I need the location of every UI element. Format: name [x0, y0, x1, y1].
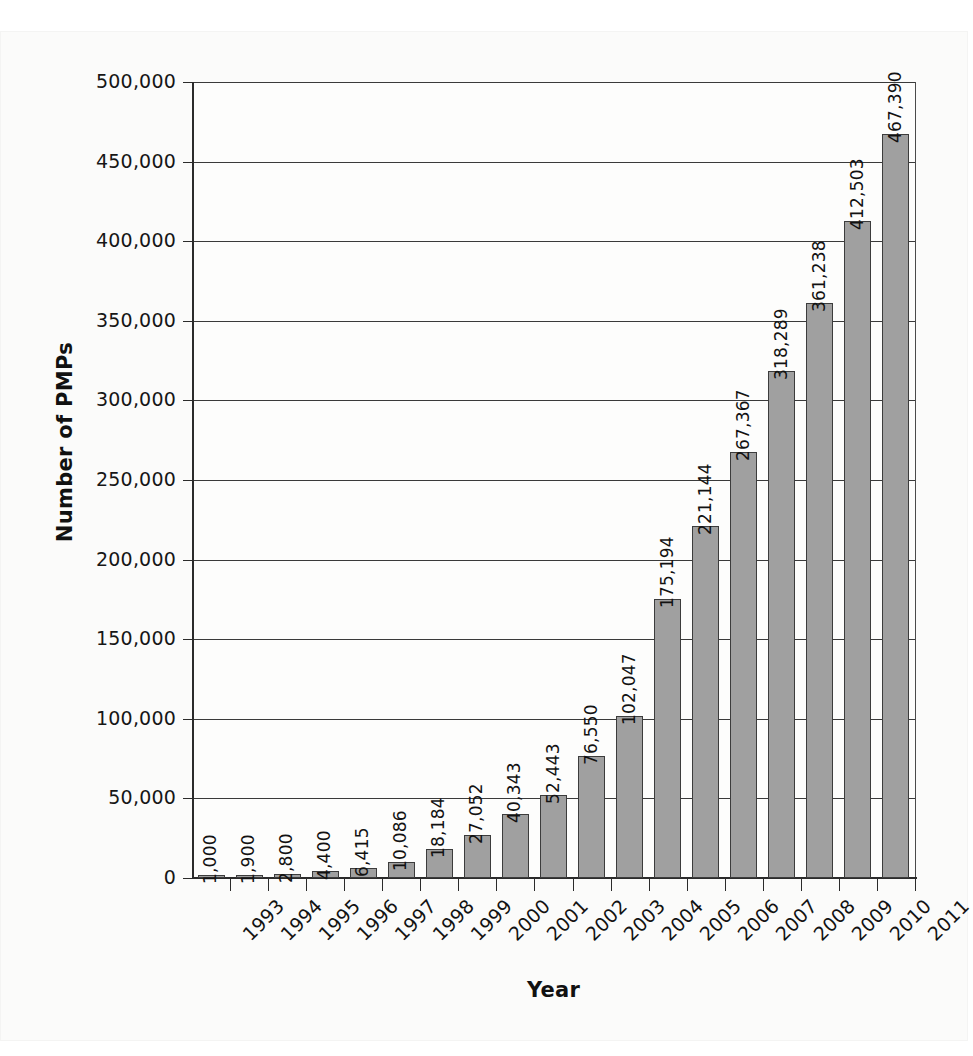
x-axis-category-label: 1998: [429, 896, 477, 944]
x-axis-tick: [573, 879, 574, 891]
x-axis-category-label: 1994: [277, 896, 325, 944]
x-axis-category-label: 2002: [582, 896, 630, 944]
bar-value-label: 102,047: [621, 653, 638, 725]
x-axis-tick: [725, 879, 726, 891]
bar-value-label: 40,343: [506, 762, 523, 823]
x-axis-tick: [801, 879, 802, 891]
x-axis-category-label: 2011: [924, 896, 972, 944]
x-axis-tick: [496, 879, 497, 891]
x-axis-tick: [420, 879, 421, 891]
y-axis-line: [192, 82, 194, 879]
x-axis-tick: [611, 879, 612, 891]
x-axis-tick: [344, 879, 345, 891]
x-axis-tick: [230, 879, 231, 891]
y-axis-tick-label: 300,000: [76, 390, 176, 409]
bar: [654, 599, 681, 878]
y-axis-title: Number of PMPs: [53, 332, 77, 552]
bar-value-label: 6,415: [354, 827, 371, 877]
x-axis-category-label: 2010: [886, 896, 934, 944]
y-axis-tick-label: 450,000: [76, 152, 176, 171]
x-axis-tick: [915, 879, 916, 891]
y-axis-tick-label: 100,000: [76, 709, 176, 728]
bar-value-label: 361,238: [811, 240, 828, 312]
y-axis-tick: [183, 798, 192, 799]
bar-value-label: 2,800: [278, 833, 295, 883]
bar-value-label: 1,900: [240, 834, 257, 884]
x-axis-category-label: 1999: [467, 896, 515, 944]
bar: [806, 303, 833, 878]
bar: [844, 221, 871, 878]
bar: [578, 756, 605, 878]
x-axis-tick: [687, 879, 688, 891]
x-axis-category-label: 2008: [810, 896, 858, 944]
bar: [616, 716, 643, 878]
bar-value-label: 412,503: [849, 158, 866, 230]
bar: [692, 526, 719, 878]
x-axis-tick: [458, 879, 459, 891]
bar: [730, 452, 757, 878]
y-axis-tick: [183, 560, 192, 561]
x-axis-category-label: 1993: [239, 896, 287, 944]
x-axis-category-label: 2009: [848, 896, 896, 944]
x-axis-category-label: 1996: [353, 896, 401, 944]
y-axis-tick-label: 400,000: [76, 231, 176, 250]
bar-value-label: 10,086: [392, 810, 409, 871]
y-axis-tick-label: 250,000: [76, 470, 176, 489]
x-axis-tick: [382, 879, 383, 891]
bar: [882, 134, 909, 878]
x-axis-title: Year: [192, 978, 915, 1002]
plot-right-border: [915, 82, 916, 879]
x-axis-category-label: 2004: [658, 896, 706, 944]
x-axis-tick: [763, 879, 764, 891]
bar-value-label: 175,194: [659, 536, 676, 608]
y-axis-tick: [183, 480, 192, 481]
y-axis-tick: [183, 400, 192, 401]
bar-value-label: 1,000: [202, 834, 219, 884]
y-axis-tick: [183, 719, 192, 720]
x-axis-tick: [268, 879, 269, 891]
bar: [540, 795, 567, 878]
x-axis-tick: [877, 879, 878, 891]
x-axis-category-label: 1995: [315, 896, 363, 944]
bar-value-label: 27,052: [468, 783, 485, 844]
bar-value-label: 18,184: [430, 797, 447, 858]
bar-value-label: 52,443: [545, 743, 562, 804]
x-axis-category-label: 2003: [620, 896, 668, 944]
x-axis-tick: [649, 879, 650, 891]
x-axis-tick: [306, 879, 307, 891]
bar-value-label: 76,550: [583, 704, 600, 765]
bar-value-label: 318,289: [773, 308, 790, 380]
y-axis-tick-label: 350,000: [76, 311, 176, 330]
x-axis-category-label: 2000: [505, 896, 553, 944]
gridline: [192, 241, 915, 242]
bar-value-label: 267,367: [735, 389, 752, 461]
y-axis-tick: [183, 321, 192, 322]
y-axis-tick: [183, 241, 192, 242]
x-axis-category-label: 2007: [772, 896, 820, 944]
gridline: [192, 162, 915, 163]
x-axis-tick: [839, 879, 840, 891]
bar-value-label: 4,400: [316, 830, 333, 880]
y-axis-tick: [183, 82, 192, 83]
y-axis-tick: [183, 162, 192, 163]
bar-value-label: 221,144: [697, 463, 714, 535]
bar: [768, 371, 795, 878]
x-axis-category-label: 1997: [391, 896, 439, 944]
bar: [502, 814, 529, 878]
y-axis-tick-label: 500,000: [76, 72, 176, 91]
y-axis-tick-label: 150,000: [76, 629, 176, 648]
y-axis-tick: [183, 878, 192, 879]
y-axis-tick: [183, 639, 192, 640]
x-axis-category-label: 2005: [696, 896, 744, 944]
bar-value-label: 467,390: [887, 71, 904, 143]
x-axis-category-label: 2006: [734, 896, 782, 944]
y-axis-tick-label: 0: [76, 868, 176, 887]
gridline: [192, 82, 915, 83]
x-axis-tick: [534, 879, 535, 891]
x-axis-category-label: 2001: [543, 896, 591, 944]
y-axis-tick-label: 200,000: [76, 550, 176, 569]
y-axis-tick-label: 50,000: [76, 788, 176, 807]
